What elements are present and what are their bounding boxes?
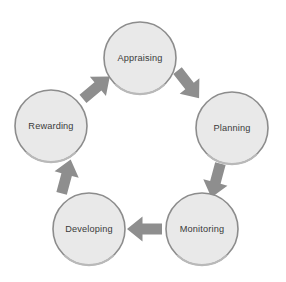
node-monitoring[interactable]: Monitoring [166,193,238,265]
node-developing[interactable]: Developing [53,193,125,265]
node-appraising[interactable]: Appraising [104,22,176,94]
arrow-monitoring-to-developing [127,217,162,242]
node-planning-label: Planning [214,123,251,133]
node-appraising-label: Appraising [118,53,163,63]
performance-management-cycle-diagram: Appraising Planning Monitoring Developin… [0,0,286,282]
node-rewarding-label: Rewarding [28,121,73,131]
node-rewarding[interactable]: Rewarding [15,90,87,162]
cycle-diagram-canvas: Appraising Planning Monitoring Developin… [0,0,286,282]
node-planning[interactable]: Planning [196,92,268,164]
node-developing-label: Developing [65,224,112,234]
node-monitoring-label: Monitoring [180,224,224,234]
